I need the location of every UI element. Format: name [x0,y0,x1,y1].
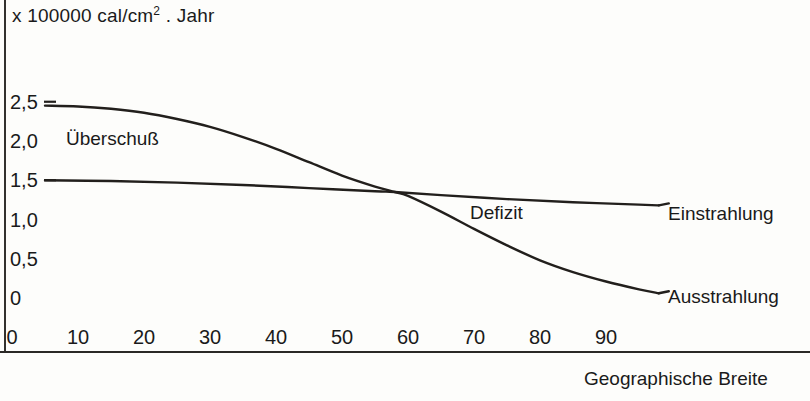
series-label-ausstrahlung: Ausstrahlung [668,286,779,308]
radiation-balance-chart: x 100000 cal/cm2 . Jahr 00,51,01,52,02,5… [0,0,810,401]
series-label-einstrahlung: Einstrahlung [668,203,774,225]
y-axis-tick-marks [44,102,56,181]
annotation-ueberschuss: Überschuß [66,128,159,150]
x-axis-title: Geographische Breite [584,368,768,390]
series-line-ausstrahlung [45,180,659,205]
annotation-defizit: Defizit [470,202,523,224]
chart-plot-area [0,0,810,401]
